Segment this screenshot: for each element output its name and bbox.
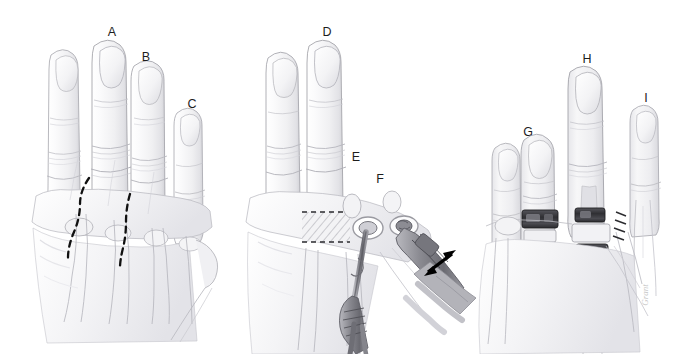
metacarpal-head bbox=[495, 217, 521, 235]
implant-spacer bbox=[572, 224, 610, 242]
fingernail bbox=[56, 56, 78, 92]
label-H: H bbox=[582, 52, 591, 66]
label-A: A bbox=[108, 25, 117, 39]
finger-index-left bbox=[47, 50, 82, 212]
label-G: G bbox=[523, 125, 533, 139]
implant-stem bbox=[581, 186, 597, 209]
fingernail bbox=[315, 46, 341, 88]
label-B: B bbox=[142, 50, 150, 64]
fingernail bbox=[100, 46, 126, 88]
label-C: C bbox=[187, 97, 196, 111]
label-I: I bbox=[644, 91, 647, 105]
hatched-resection-block bbox=[302, 212, 350, 242]
illustration-canvas: A B C bbox=[0, 0, 684, 354]
label-E: E bbox=[352, 150, 360, 164]
label-D: D bbox=[322, 25, 331, 39]
surgical-illustration-figure: A B C bbox=[0, 0, 684, 354]
fingernail bbox=[576, 72, 602, 114]
artist-signature: Grant bbox=[640, 284, 650, 306]
label-F: F bbox=[376, 172, 384, 186]
fingernail bbox=[273, 58, 297, 97]
